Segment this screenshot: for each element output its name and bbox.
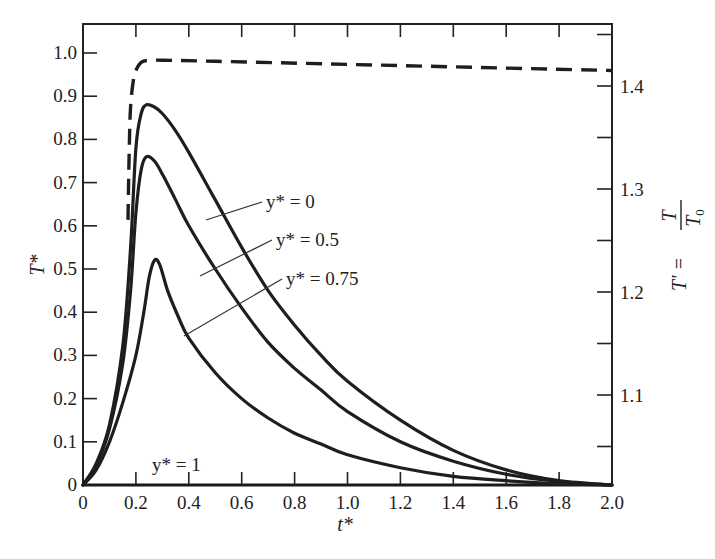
y-tick-label: 0.6	[53, 215, 77, 236]
x-tick-label: 0.8	[283, 492, 307, 513]
x-tick-label: 1.2	[389, 492, 413, 513]
right-axis-title: T' = T T0	[658, 200, 707, 291]
right-y-tick-label: 1.3	[620, 179, 644, 200]
annotation-leaders	[184, 202, 282, 336]
chart: 00.20.40.60.81.01.21.41.61.82.000.10.20.…	[0, 0, 715, 559]
right-y-tick-label: 1.1	[620, 385, 644, 406]
x-tick-label: 2.0	[600, 492, 624, 513]
dashed-curve-T-prime	[128, 60, 612, 220]
y-tick-label: 0.3	[53, 344, 77, 365]
annotation-y075: y* = 0.75	[286, 268, 358, 289]
x-tick-label: 1.0	[336, 492, 360, 513]
y-tick-label: 0	[68, 474, 78, 495]
plot-frame	[83, 24, 612, 485]
x-tick-label: 0.6	[230, 492, 254, 513]
curve-series-2	[83, 259, 612, 485]
y-tick-label: 0.1	[53, 431, 77, 452]
x-tick-label: 0.4	[177, 492, 201, 513]
right-y-tick-label: 1.2	[620, 282, 644, 303]
annotation-y0: y* = 0	[266, 191, 315, 212]
y-tick-label: 0.8	[53, 128, 77, 149]
annotation-y05: y* = 0.5	[276, 229, 339, 250]
curve-series-0	[83, 105, 612, 485]
right-axis-title-numerator: T	[658, 209, 680, 222]
right-y-tick-label: 1.4	[620, 76, 644, 97]
x-tick-label: 1.6	[494, 492, 518, 513]
plot-border	[83, 24, 612, 485]
y-tick-label: 0.4	[53, 301, 77, 322]
right-axis-title-denominator: T0	[682, 209, 707, 227]
y-tick-label: 1.0	[53, 42, 77, 63]
right-axis-title-prefix: T' =	[668, 257, 690, 291]
y-tick-label: 0.9	[53, 85, 77, 106]
x-axis-title: t*	[337, 513, 353, 535]
annotation-y1: y* = 1	[152, 454, 201, 475]
leader-line-2	[184, 279, 282, 336]
y-tick-label: 0.5	[53, 258, 77, 279]
x-tick-label: 1.4	[441, 492, 465, 513]
curve-series-1	[83, 156, 612, 485]
x-tick-label: 1.8	[547, 492, 571, 513]
leader-line-0	[206, 202, 262, 220]
y-axis-title: T*	[26, 254, 48, 275]
x-tick-label: 0.2	[124, 492, 148, 513]
y-tick-label: 0.2	[53, 388, 77, 409]
x-tick-label: 0	[78, 492, 88, 513]
leader-line-1	[200, 240, 272, 276]
y-tick-label: 0.7	[53, 172, 77, 193]
